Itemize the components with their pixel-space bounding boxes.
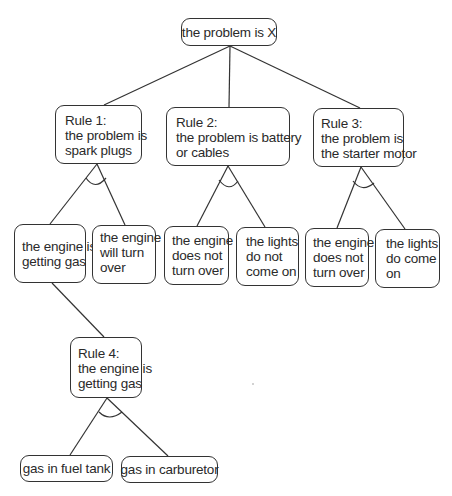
rule1-line3: spark plugs [65, 143, 135, 158]
r3c1-line3: turn over [313, 265, 362, 280]
rule3-line2: the problem is [321, 131, 397, 146]
r1c2-line2: will turn [100, 245, 149, 260]
r1-child-engine-will-turn-over: the engine will turn over [92, 225, 156, 284]
rule2-title: Rule 2: [176, 115, 283, 130]
rule3-node: Rule 3: the problem is the starter motor [313, 108, 404, 167]
r1c2-line3: over [100, 260, 149, 275]
r1c1-line1: the engine is [22, 239, 79, 254]
r2c2-line2: do not [246, 249, 292, 264]
speck [252, 383, 254, 385]
edge-rule1-c2 [97, 164, 125, 225]
r2c1-line2: does not [172, 248, 222, 263]
r2-child-lights-do-not-come-on: the lights do not come on [236, 227, 299, 286]
r3-child-engine-does-not-turn-over: the engine does not turn over [305, 228, 369, 287]
rule1-line2: the problem is [65, 128, 135, 143]
rule4-title: Rule 4: [78, 346, 135, 361]
rule1-node: Rule 1: the problem is spark plugs [55, 105, 142, 164]
rule2-line3: or cables [176, 145, 283, 160]
r4c2-label: gas in carburetor [121, 462, 219, 477]
r2c2-line1: the lights [246, 234, 292, 249]
r1c1-line2: getting gas [22, 254, 79, 269]
r3c1-line1: the engine [313, 235, 362, 250]
edge-r1c1-rule4 [52, 283, 104, 337]
r3c1-line2: does not [313, 250, 362, 265]
edge-rule2-c1 [197, 166, 228, 226]
r3c2-line2: do come [386, 251, 433, 266]
r2c1-line3: turn over [172, 263, 222, 278]
r4-child-gas-in-fuel-tank: gas in fuel tank [20, 455, 113, 482]
rule4-line3: getting gas [78, 376, 135, 391]
and-arc-rule4 [99, 412, 122, 417]
rule4-node: Rule 4: the engine is getting gas [70, 337, 142, 398]
rule2-node: Rule 2: the problem is battery or cables [166, 107, 290, 166]
rule3-line3: the starter motor [321, 146, 397, 161]
r1-child-engine-getting-gas: the engine is getting gas [14, 224, 86, 283]
edge-rule4-c1 [70, 398, 107, 455]
edge-rule1-c1 [50, 164, 97, 224]
rule1-title: Rule 1: [65, 113, 135, 128]
edge-rule2-c2 [228, 166, 265, 227]
edge-root-rule1 [104, 46, 230, 105]
r2c1-line1: the engine [172, 233, 222, 248]
r1c2-line1: the engine [100, 230, 149, 245]
r2-child-engine-does-not-turn-over: the engine does not turn over [164, 226, 229, 285]
rule2-line2: the problem is battery [176, 130, 283, 145]
r3c2-line1: the lights [386, 236, 433, 251]
and-arc-rule3 [353, 181, 374, 188]
r4-child-gas-in-carburetor: gas in carburetor [121, 456, 218, 483]
root-node: the problem is X [181, 18, 277, 46]
and-arc-rule2 [219, 180, 238, 187]
edge-root-rule3 [230, 46, 360, 108]
rule4-line2: the engine is [78, 361, 135, 376]
r4c1-label: gas in fuel tank [23, 461, 111, 476]
edge-rule3-c1 [337, 167, 361, 228]
r3-child-lights-do-come-on: the lights do come on [375, 229, 440, 288]
r2c2-line3: come on [246, 264, 292, 279]
r3c2-line3: on [386, 266, 433, 281]
edge-root-rule2 [229, 46, 230, 107]
edge-rule3-c2 [361, 167, 405, 229]
root-label: the problem is X [182, 25, 276, 40]
rule3-title: Rule 3: [321, 116, 397, 131]
edge-rule4-c2 [107, 398, 168, 456]
and-arc-rule1 [86, 178, 106, 185]
